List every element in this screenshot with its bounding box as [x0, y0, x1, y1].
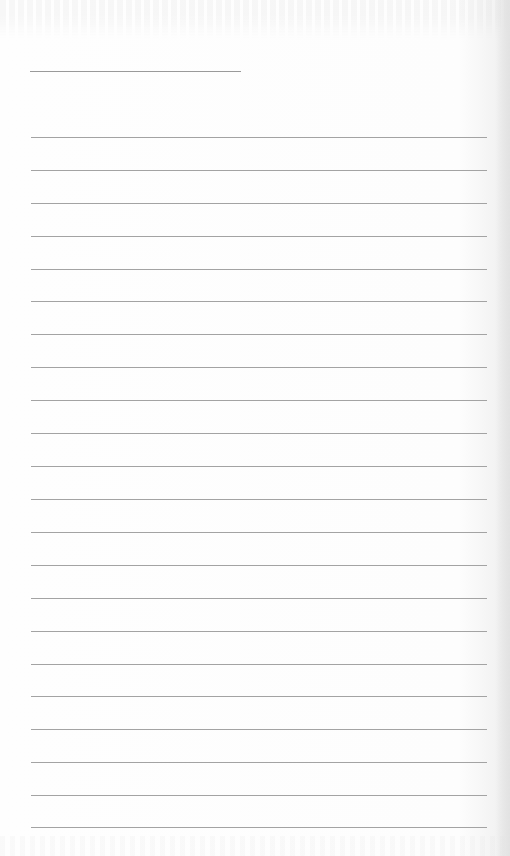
- ruled-line: [31, 499, 487, 500]
- ruled-line: [31, 433, 487, 434]
- ruled-line: [31, 367, 487, 368]
- ruled-line: [31, 729, 487, 730]
- bleed-through-top: [0, 0, 510, 40]
- ruled-line: [31, 532, 487, 533]
- ruled-line: [31, 400, 487, 401]
- ruled-line: [31, 269, 487, 270]
- ruled-line: [31, 664, 487, 665]
- ruled-line: [31, 466, 487, 467]
- ruled-line: [31, 137, 487, 138]
- ruled-line: [31, 203, 487, 204]
- ruled-line: [31, 827, 487, 828]
- ruled-line: [31, 301, 487, 302]
- ruled-line: [31, 334, 487, 335]
- ruled-line: [31, 631, 487, 632]
- ruled-line: [31, 696, 487, 697]
- page-edge-shadow: [496, 0, 510, 856]
- bleed-through-bottom: [0, 836, 510, 856]
- ruled-line: [31, 795, 487, 796]
- ruled-line: [31, 170, 487, 171]
- ruled-line: [31, 762, 487, 763]
- ruled-line: [31, 236, 487, 237]
- ruled-line: [31, 598, 487, 599]
- lined-paper-page: [0, 0, 510, 856]
- ruled-line: [31, 565, 487, 566]
- name-field-line: [30, 71, 241, 72]
